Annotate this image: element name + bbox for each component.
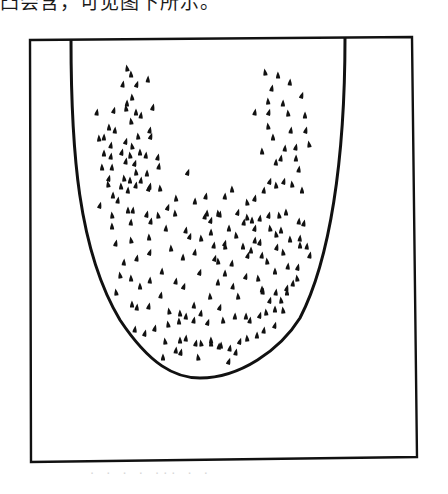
dot [301, 219, 307, 227]
dot [252, 224, 258, 232]
dot [257, 214, 262, 222]
dot [297, 217, 302, 224]
dot [165, 203, 171, 211]
dot [135, 303, 140, 310]
dot [295, 263, 301, 271]
dot [284, 208, 288, 215]
dot [198, 309, 203, 317]
dot [130, 93, 135, 100]
dot [111, 106, 117, 114]
dot [211, 241, 216, 249]
dot [221, 316, 226, 323]
dot [253, 236, 258, 243]
dot [100, 163, 105, 170]
dot [298, 234, 303, 241]
dot [241, 243, 245, 250]
dot [209, 336, 213, 343]
dot [146, 75, 151, 82]
dot [164, 224, 169, 231]
dot [123, 137, 129, 145]
dot [110, 222, 114, 229]
dot [226, 357, 232, 365]
dot [122, 258, 127, 265]
dot [191, 316, 197, 324]
dot [264, 308, 269, 315]
dot [132, 159, 138, 167]
dot [97, 201, 103, 209]
particle-dots [94, 64, 312, 365]
dot [293, 143, 299, 151]
dot [115, 196, 120, 204]
dot [129, 274, 134, 281]
dot [119, 182, 124, 189]
dot [298, 241, 302, 248]
dot [139, 176, 144, 183]
dot [276, 71, 280, 78]
dot [108, 141, 113, 149]
dot [267, 177, 273, 185]
dot [102, 149, 106, 156]
dot [124, 64, 129, 72]
dot [227, 344, 232, 352]
dot [158, 184, 163, 191]
dot [193, 339, 199, 347]
dot [229, 259, 234, 267]
dot [209, 228, 213, 235]
dot [265, 257, 270, 264]
dot [208, 292, 213, 299]
dot [261, 326, 266, 334]
dot [192, 248, 197, 256]
dot [134, 254, 140, 262]
dot [259, 251, 264, 259]
dot [177, 317, 181, 324]
dot-distribution-diagram [0, 0, 448, 494]
dot [111, 191, 115, 198]
dot [245, 334, 250, 341]
dot [144, 210, 150, 218]
dot [126, 186, 131, 193]
dot [267, 296, 273, 304]
dot [300, 187, 304, 194]
dot [305, 242, 310, 249]
dot [166, 307, 171, 315]
dot [129, 218, 134, 225]
dot [108, 152, 113, 160]
caption-text-bottom: · · · · ··· · · [90, 466, 410, 486]
dot [281, 177, 287, 185]
dot [160, 267, 165, 274]
dot [273, 268, 277, 275]
dot [133, 181, 138, 189]
dot [158, 291, 164, 299]
dot [234, 231, 239, 238]
dot [252, 194, 258, 202]
dot [267, 224, 272, 232]
dot [273, 230, 278, 238]
dot [306, 140, 311, 148]
dot [247, 316, 252, 324]
dot [120, 80, 125, 88]
dot [128, 236, 133, 244]
dot [94, 108, 99, 116]
dot [294, 154, 298, 161]
dot [138, 148, 142, 155]
dot [205, 318, 211, 326]
dot [269, 84, 275, 92]
dot [178, 336, 182, 343]
dot [262, 186, 267, 193]
dot [139, 111, 144, 118]
dot [286, 262, 291, 269]
dot [150, 103, 156, 111]
dot [235, 208, 241, 216]
dot [303, 111, 307, 118]
dot [227, 224, 231, 231]
dot [274, 243, 280, 251]
dot [255, 331, 259, 338]
dot [123, 157, 128, 165]
dot [233, 312, 238, 319]
dot [147, 126, 153, 134]
dot [244, 198, 249, 206]
dot [249, 246, 253, 253]
dot [156, 162, 161, 170]
u-shaped-curve [71, 38, 345, 378]
dot [134, 168, 139, 175]
